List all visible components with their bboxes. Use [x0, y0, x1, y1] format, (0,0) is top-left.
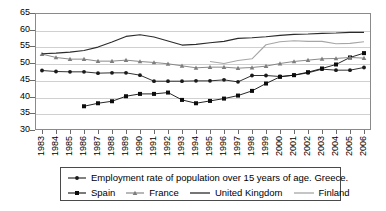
- x-tick-mark: [266, 130, 267, 134]
- data-point: [362, 51, 366, 55]
- x-tick-label: 1996: [219, 136, 228, 156]
- x-tick-label: 1995: [205, 136, 214, 156]
- data-point: [250, 74, 254, 78]
- data-point: [124, 71, 128, 75]
- legend-marker-triangle: [125, 188, 145, 198]
- data-point: [96, 101, 100, 105]
- x-tick-label: 1988: [107, 136, 116, 156]
- x-tick-mark: [280, 130, 281, 134]
- data-point: [348, 68, 352, 72]
- data-point: [334, 68, 338, 72]
- line-chart: 3035404550556065 19831984198519861987198…: [0, 0, 386, 211]
- x-tick-mark: [98, 130, 99, 134]
- y-tick-label: 45: [8, 75, 30, 84]
- x-tick-label: 2005: [345, 136, 354, 156]
- x-tick-label: 1998: [247, 136, 256, 156]
- x-tick-mark: [154, 130, 155, 134]
- series-line: [42, 67, 364, 81]
- legend-item[interactable]: Spain: [67, 188, 115, 198]
- y-tick-mark: [30, 130, 35, 131]
- data-point: [194, 101, 198, 105]
- x-tick-label: 2003: [317, 136, 326, 156]
- data-point: [208, 79, 212, 83]
- data-point: [278, 75, 282, 79]
- x-tick-label: 1986: [79, 136, 88, 156]
- x-tick-mark: [252, 130, 253, 134]
- legend-item[interactable]: Employment rate of population over 15 ye…: [67, 173, 348, 183]
- x-tick-label: 1985: [65, 136, 74, 156]
- series-greece: [40, 66, 366, 84]
- series-line: [210, 41, 364, 64]
- y-tick-label: 65: [8, 8, 30, 17]
- data-point: [292, 73, 296, 77]
- x-tick-label: 1997: [233, 136, 242, 156]
- legend-item[interactable]: United Kingdom: [189, 188, 283, 198]
- x-tick-mark: [140, 130, 141, 134]
- x-tick-label: 1984: [51, 136, 60, 156]
- y-tick-label: 35: [8, 108, 30, 117]
- x-tick-label: 2004: [331, 136, 340, 156]
- legend-item[interactable]: France: [125, 188, 179, 198]
- data-point: [264, 74, 268, 78]
- x-tick-mark: [56, 130, 57, 134]
- data-point: [194, 79, 198, 83]
- legend-item-label: Finland: [319, 188, 350, 198]
- series-france: [40, 52, 367, 70]
- x-tick-mark: [210, 130, 211, 134]
- legend-marker-none: [189, 188, 211, 198]
- x-tick-mark: [322, 130, 323, 134]
- x-tick-mark: [182, 130, 183, 134]
- series-line: [42, 32, 364, 53]
- x-tick-mark: [308, 130, 309, 134]
- x-tick-label: 1993: [177, 136, 186, 156]
- x-tick-mark: [196, 130, 197, 134]
- data-point: [306, 70, 310, 74]
- x-tick-label: 2001: [289, 136, 298, 156]
- legend-marker-none: [293, 188, 315, 198]
- x-tick-label: 2000: [275, 136, 284, 156]
- data-point: [152, 92, 156, 96]
- series-line: [42, 54, 364, 68]
- x-tick-label: 1999: [261, 136, 270, 156]
- x-tick-mark: [70, 130, 71, 134]
- data-point: [82, 70, 86, 74]
- data-point: [138, 92, 142, 96]
- legend-marker-glyph: [75, 191, 79, 195]
- y-tick-label: 40: [8, 92, 30, 101]
- x-tick-mark: [350, 130, 351, 134]
- x-tick-label: 1994: [191, 136, 200, 156]
- data-point: [264, 82, 268, 86]
- legend-item[interactable]: Finland: [293, 188, 350, 198]
- x-tick-mark: [238, 130, 239, 134]
- legend-marker-circle: [67, 173, 87, 183]
- data-point: [222, 78, 226, 82]
- x-tick-label: 1992: [163, 136, 172, 156]
- series-layer: [35, 13, 371, 130]
- data-point: [362, 66, 366, 70]
- chart-legend: Employment rate of population over 15 ye…: [60, 167, 341, 201]
- data-point: [152, 79, 156, 83]
- data-point: [334, 62, 338, 66]
- series-united-kingdom: [42, 32, 364, 53]
- data-point: [222, 97, 226, 101]
- x-tick-mark: [224, 130, 225, 134]
- x-tick-mark: [294, 130, 295, 134]
- data-point: [82, 104, 86, 108]
- data-point: [166, 79, 170, 83]
- legend-item-label: Spain: [91, 188, 115, 198]
- data-point: [166, 91, 170, 95]
- legend-item-label: Employment rate of population over 15 ye…: [91, 173, 348, 183]
- x-tick-mark: [126, 130, 127, 134]
- y-tick-label: 50: [8, 58, 30, 67]
- x-tick-label: 1987: [93, 136, 102, 156]
- y-tick-label: 30: [8, 125, 30, 134]
- data-point: [250, 89, 254, 93]
- data-point: [124, 94, 128, 98]
- data-point: [320, 66, 324, 70]
- x-tick-label: 2002: [303, 136, 312, 156]
- series-finland: [210, 41, 364, 64]
- x-tick-mark: [168, 130, 169, 134]
- x-tick-mark: [42, 130, 43, 134]
- x-tick-mark: [336, 130, 337, 134]
- data-point: [40, 69, 44, 73]
